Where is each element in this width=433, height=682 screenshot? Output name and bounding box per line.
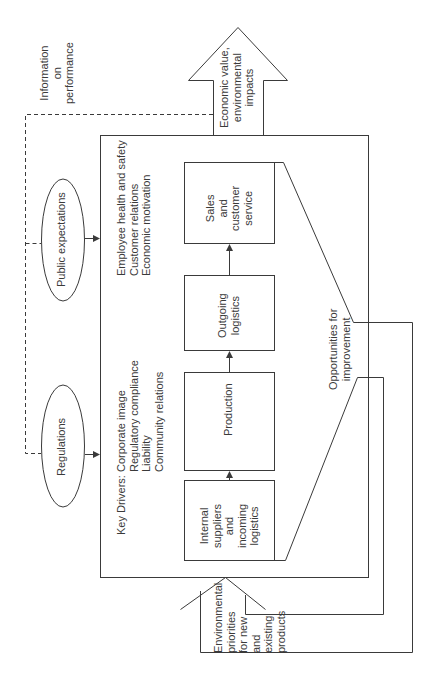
key-driver-item: Community relations <box>153 360 166 472</box>
key-drivers-group2: Employee health and safety Customer rela… <box>115 140 153 276</box>
key-drivers-heading: Key Drivers: <box>115 475 128 535</box>
feedback-label-line: performance <box>63 42 76 104</box>
env-label-line: products <box>275 583 288 653</box>
key-driver-item: Liability <box>140 360 153 472</box>
outgoing-label-line: logistics <box>229 293 242 338</box>
sales-label: Sales and customer service <box>204 186 254 231</box>
output-label-line: environmental <box>231 47 244 128</box>
sales-label-line: and <box>217 186 230 231</box>
output-label-line: Economic value, <box>218 47 231 128</box>
key-driver-item: Economic motivation <box>140 140 153 276</box>
key-drivers-heading-text: Key Drivers: <box>115 475 127 535</box>
public-expectations-text: Public expectations <box>55 192 67 287</box>
key-driver-item: Employee health and safety <box>115 140 128 276</box>
opportunities-inner-loop <box>246 378 384 615</box>
env-label-line: and <box>250 583 263 653</box>
internal-label-line: incoming <box>236 504 249 548</box>
internal-label-line: Internal <box>198 504 211 548</box>
key-driver-item: Regulatory compliance <box>128 360 141 472</box>
internal-label-line: suppliers <box>211 504 224 548</box>
internal-label-line: and <box>223 504 236 548</box>
information-on-performance-label: Information on performance <box>38 42 76 104</box>
key-driver-item: Corporate image <box>115 360 128 472</box>
key-driver-item: Customer relations <box>128 140 141 276</box>
output-arrow-label: Economic value, environmental impacts <box>218 47 256 128</box>
regulations-text: Regulations <box>55 418 67 476</box>
env-label-line: existing <box>262 583 275 653</box>
internal-label-line: logistics <box>248 504 261 548</box>
outgoing-label-line: Outgoing <box>216 293 229 338</box>
public-expectations-label: Public expectations <box>55 192 68 287</box>
key-drivers-group1: Corporate image Regulatory compliance Li… <box>115 360 165 472</box>
opportunities-label-line: improvement <box>340 309 353 390</box>
production-label-line: Production <box>222 383 235 436</box>
production-label: Production <box>222 383 235 436</box>
sales-label-line: service <box>242 186 255 231</box>
outgoing-logistics-label: Outgoing logistics <box>216 293 241 338</box>
sales-label-line: customer <box>229 186 242 231</box>
env-label-line: Environmental <box>212 583 225 653</box>
feedback-label-line: Information <box>38 42 51 104</box>
env-label-line: for new <box>237 583 250 653</box>
environmental-priorities-label: Environmental priorities for new and exi… <box>212 583 287 653</box>
env-label-line: priorities <box>225 583 238 653</box>
internal-suppliers-label: Internal suppliers and incoming logistic… <box>198 504 261 548</box>
sales-label-line: Sales <box>204 186 217 231</box>
regulations-label: Regulations <box>55 418 68 476</box>
feedback-label-line: on <box>51 42 64 104</box>
output-label-line: impacts <box>243 47 256 128</box>
opportunities-label-line: Opportunities for <box>327 309 340 390</box>
opportunities-label: Opportunities for improvement <box>327 309 352 390</box>
